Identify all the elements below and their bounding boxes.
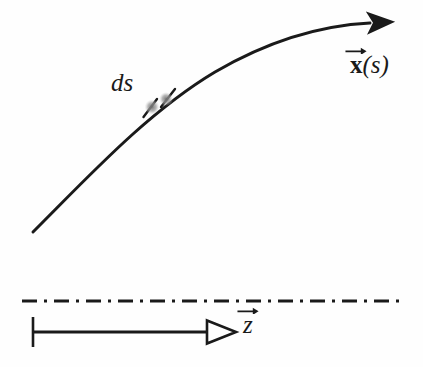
label-z-symbol: z [243,312,253,337]
z-axis-open-arrowhead [207,321,236,344]
curve-xs [33,23,370,232]
label-x-symbol: x [350,52,363,77]
vector-x-group: x [350,52,363,77]
label-ds: ds [111,70,133,95]
z-axis-arrow [33,317,236,347]
ds-dot-secondary [159,92,173,106]
ds-dot [145,100,160,115]
label-ds-text: ds [111,69,133,96]
label-s-parameter: (s) [363,51,389,78]
label-z-axis: z [243,312,253,337]
figure-canvas: ds x (s) z [0,0,423,367]
curve-path [33,23,370,232]
vector-z-group: z [243,312,253,337]
label-x-of-s: x (s) [350,52,389,77]
